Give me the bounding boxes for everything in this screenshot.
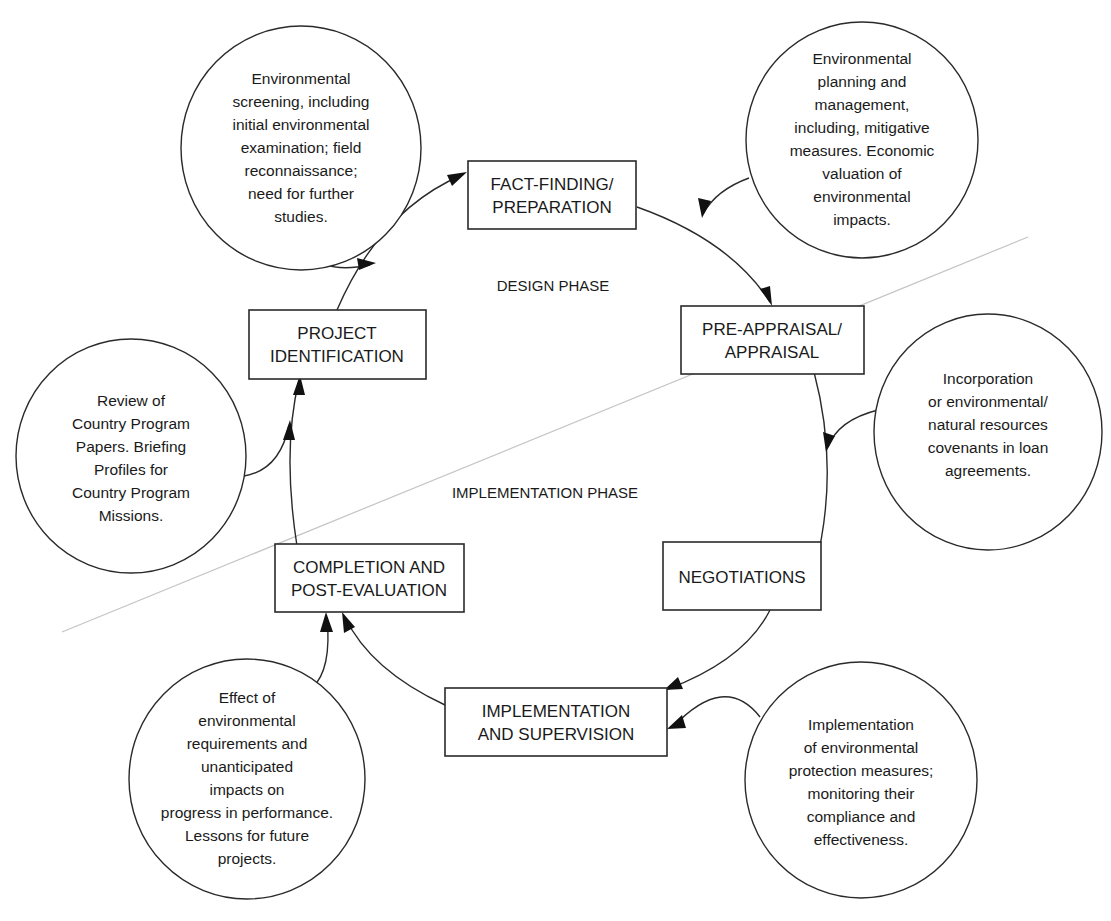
note-line: impacts. [833, 211, 891, 228]
arrow-completion-to-identification [290, 380, 299, 546]
arrow-appraisal-to-negotiations [814, 372, 827, 568]
note-line: impacts on [210, 781, 285, 798]
stage-label: PREPARATION [492, 198, 611, 217]
note-line: examination; field [241, 139, 362, 156]
cycle-flow-arrows [290, 172, 827, 705]
note-line: Review of [97, 392, 166, 409]
note-line: Effect of [219, 689, 276, 706]
diagram-canvas: DESIGN PHASE IMPLEMENTATION PHASE [0, 0, 1111, 921]
arrow-planning-note [703, 178, 749, 214]
stage-label: COMPLETION AND [293, 558, 445, 577]
arrow-factfinding-to-appraisal [637, 207, 770, 302]
arrowhead-icon [320, 612, 333, 632]
note-line: need for further [248, 185, 354, 202]
note-circle [16, 339, 246, 573]
stage-label: POST-EVALUATION [291, 581, 447, 600]
note-line: studies. [274, 208, 327, 225]
note-line: natural resources [928, 416, 1048, 433]
note-line: environmental [813, 188, 910, 205]
stage-negotiations: NEGOTIATIONS [663, 542, 821, 610]
note-line: of environmental [804, 739, 919, 756]
arrow-implementation-to-completion [345, 617, 445, 705]
note-line: requirements and [187, 735, 308, 752]
note-line: measures. Economic [790, 142, 935, 159]
arrowhead-icon [760, 286, 772, 306]
note-planning: Environmental planning and management, i… [746, 22, 978, 258]
stage-implementation: IMPLEMENTATION AND SUPERVISION [445, 688, 667, 756]
note-effect: Effect of environmental requirements and… [129, 659, 365, 899]
note-line: Lessons for future [185, 827, 309, 844]
stage-label: AND SUPERVISION [478, 725, 635, 744]
stage-label: FACT-FINDING/ [491, 175, 614, 194]
arrow-covenants-note [828, 410, 878, 447]
note-line: monitoring their [808, 785, 915, 802]
stage-label: IMPLEMENTATION [482, 702, 631, 721]
arrowhead-icon [823, 432, 835, 452]
note-line: unanticipated [201, 758, 293, 775]
note-line: effectiveness. [814, 831, 909, 848]
arrowhead-icon [283, 420, 295, 440]
arrowhead-icon [698, 198, 711, 218]
note-line: Missions. [99, 507, 164, 524]
stage-label: PROJECT [297, 324, 376, 343]
note-line: initial environmental [233, 116, 370, 133]
note-covenants: Incorporation or environmental/ natural … [874, 314, 1102, 550]
note-line: reconnaissance; [245, 162, 358, 179]
note-line: or environmental/ [928, 393, 1048, 410]
stage-box [445, 688, 667, 756]
note-line: Implementation [808, 716, 914, 733]
stage-pre-appraisal: PRE-APPRAISAL/ APPRAISAL [681, 306, 864, 374]
note-line: screening, including [232, 93, 369, 110]
stage-label: IDENTIFICATION [270, 347, 404, 366]
note-line: Country Program [72, 415, 190, 432]
implementation-phase-label: IMPLEMENTATION PHASE [452, 484, 638, 501]
note-circle [745, 662, 977, 898]
note-line: protection measures; [789, 762, 934, 779]
stage-fact-finding: FACT-FINDING/ PREPARATION [468, 161, 636, 229]
note-line: environmental [198, 712, 295, 729]
note-line: valuation of [822, 165, 902, 182]
note-line: including, mitigative [794, 119, 929, 136]
note-line: Environmental [251, 70, 350, 87]
stage-box [249, 310, 426, 379]
arrowhead-icon [447, 172, 467, 186]
arrow-review-note [244, 425, 289, 476]
note-screening: Environmental screening, including initi… [181, 26, 421, 270]
note-line: planning and [818, 73, 907, 90]
note-line: Profiles for [94, 461, 168, 478]
stage-project-identification: PROJECT IDENTIFICATION [249, 310, 426, 379]
note-line: agreements. [945, 462, 1031, 479]
stage-completion: COMPLETION AND POST-EVALUATION [275, 544, 464, 612]
stage-label: NEGOTIATIONS [678, 568, 805, 587]
note-line: management, [815, 96, 910, 113]
arrow-protection-note [673, 697, 760, 727]
arrow-negotiations-to-implementation [668, 610, 770, 689]
note-line: projects. [218, 850, 277, 867]
note-review: Review of Country Program Papers. Briefi… [16, 339, 246, 573]
stage-box [275, 544, 464, 612]
note-protection: Implementation of environmental protecti… [745, 662, 977, 898]
note-line: progress in performance. [161, 804, 333, 821]
project-cycle-diagram: DESIGN PHASE IMPLEMENTATION PHASE [0, 0, 1111, 921]
stage-box [681, 306, 864, 374]
arrowhead-icon [342, 612, 355, 633]
arrowhead-icon [357, 258, 376, 270]
note-line: Environmental [812, 50, 911, 67]
note-line: Country Program [72, 484, 190, 501]
stage-label: PRE-APPRAISAL/ [702, 320, 842, 339]
design-phase-label: DESIGN PHASE [497, 277, 610, 294]
note-line: compliance and [807, 808, 916, 825]
note-line: covenants in loan [928, 439, 1049, 456]
stage-box [468, 161, 636, 229]
note-line: Incorporation [943, 370, 1033, 387]
note-line: Papers. Briefing [76, 438, 186, 455]
stage-label: APPRAISAL [725, 343, 820, 362]
